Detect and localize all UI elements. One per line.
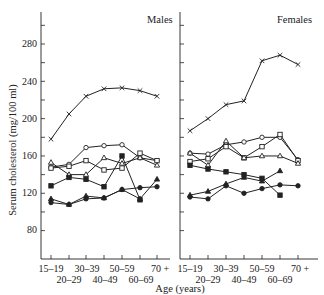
open-square-marker [120, 166, 124, 170]
filled-square-marker [84, 177, 88, 181]
filled-square-marker [67, 175, 71, 179]
series-x [49, 86, 160, 142]
m-xtick-50-59: 50–59 [110, 263, 135, 274]
cholesterol-chart: Serum cholesterol (mg/100 ml) Males Fema… [0, 0, 324, 295]
m-xtick-70plus: 70 + [151, 263, 170, 274]
filled-square-marker [224, 170, 228, 174]
open-square-marker [278, 132, 282, 136]
filled-circle-marker [206, 197, 210, 201]
f-xtick-50-59: 50–59 [250, 263, 275, 274]
filled-circle-marker [224, 184, 228, 188]
open-square-marker [67, 164, 71, 168]
ytick-160: 160 [22, 150, 37, 161]
filled-circle-marker [188, 195, 192, 199]
series-line [190, 55, 298, 131]
y-axis-label: Serum cholesterol (mg/100 ml) [7, 84, 19, 216]
filled-circle-marker [138, 185, 142, 189]
x-marker [296, 62, 301, 67]
filled-square-marker [278, 193, 282, 197]
open-square-marker [102, 168, 106, 172]
filled-square-marker [188, 163, 192, 167]
females-y-ticks [180, 25, 184, 230]
open-square-marker [49, 166, 53, 170]
series-filled-triangle [48, 176, 159, 206]
males-title: Males [147, 14, 173, 25]
males-x-tick-labels: 15–19 30–39 50–59 70 + 20–29 40–49 60–69 [39, 263, 170, 285]
open-circle-marker [260, 135, 264, 139]
filled-circle-marker [67, 202, 71, 206]
m-xtick-30-39: 30–39 [75, 263, 100, 274]
ytick-80: 80 [27, 224, 37, 235]
filled-circle-marker [278, 183, 282, 187]
f-xtick-40-49: 40–49 [232, 274, 257, 285]
x-axis-label: Age (years) [155, 283, 205, 295]
ytick-240: 240 [22, 76, 37, 87]
x-marker [49, 137, 54, 142]
open-circle-marker [120, 143, 124, 147]
f-xtick-70plus: 70 + [291, 263, 310, 274]
open-triangle-marker [259, 153, 264, 158]
filled-square-marker [49, 184, 53, 188]
x-marker [188, 128, 193, 133]
open-circle-marker [84, 145, 88, 149]
ytick-280: 280 [22, 38, 37, 49]
y-tick-labels: 280 240 200 160 120 80 [22, 38, 37, 235]
filled-triangle-marker [277, 168, 282, 173]
open-triangle-marker [48, 160, 53, 165]
open-triangle-marker [277, 153, 282, 158]
m-xtick-40-49: 40–49 [93, 274, 118, 285]
females-x-tick-labels: 15–19 30–39 50–59 70 + 20–29 40–49 60–69 [178, 263, 310, 285]
open-circle-marker [242, 140, 246, 144]
males-series [48, 86, 159, 207]
males-y-ticks [41, 25, 45, 230]
filled-circle-marker [120, 187, 124, 191]
filled-square-marker [102, 185, 106, 189]
filled-circle-marker [296, 184, 300, 188]
m-xtick-15-19: 15–19 [39, 263, 64, 274]
males-panel: Males [41, 12, 173, 259]
filled-circle-marker [242, 191, 246, 195]
x-marker [155, 94, 160, 99]
filled-triangle-marker [154, 176, 159, 181]
males-x-ticks [51, 255, 157, 259]
open-circle-marker [102, 143, 106, 147]
series-x [188, 53, 301, 133]
m-xtick-60-69: 60–69 [129, 274, 154, 285]
open-square-marker [84, 158, 88, 162]
filled-circle-marker [102, 196, 106, 200]
open-triangle-marker [223, 138, 228, 143]
series-line [51, 156, 140, 200]
filled-circle-marker [155, 185, 159, 189]
females-x-ticks [190, 255, 298, 259]
x-marker [67, 112, 72, 117]
filled-square-marker [206, 167, 210, 171]
open-triangle-marker [101, 155, 106, 160]
f-xtick-30-39: 30–39 [214, 263, 239, 274]
females-series [187, 53, 300, 201]
open-square-marker [206, 157, 210, 161]
filled-circle-marker [260, 186, 264, 190]
series-filled-triangle [187, 168, 282, 197]
f-xtick-15-19: 15–19 [178, 263, 203, 274]
females-title: Females [277, 14, 312, 25]
x-marker [84, 94, 89, 99]
open-square-marker [260, 144, 264, 148]
m-xtick-20-29: 20–29 [57, 274, 82, 285]
filled-circle-marker [84, 197, 88, 201]
f-xtick-60-69: 60–69 [268, 274, 293, 285]
x-marker [206, 116, 211, 121]
open-square-marker [224, 144, 228, 148]
filled-circle-marker [49, 200, 53, 204]
series-line [51, 88, 157, 139]
open-circle-marker [206, 152, 210, 156]
ytick-200: 200 [22, 113, 37, 124]
females-panel: Females [180, 12, 318, 259]
filled-square-marker [120, 154, 124, 158]
ytick-120: 120 [22, 187, 37, 198]
